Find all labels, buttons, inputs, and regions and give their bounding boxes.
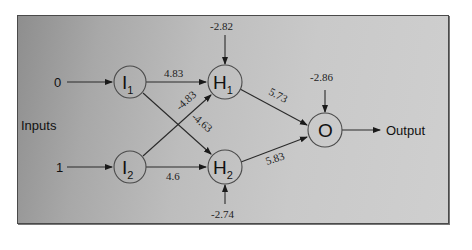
weight-i2-h2: 4.6 (166, 170, 180, 182)
inputs-label: Inputs (21, 118, 57, 133)
node-i1-label: I1 (122, 72, 133, 96)
node-o-label: O (318, 120, 333, 141)
node-i2-label: I2 (122, 157, 133, 181)
output-label: Output (386, 123, 425, 138)
weight-h1-o: 5.73 (267, 85, 290, 105)
weight-i1-h1: 4.83 (164, 67, 184, 79)
input-value-0: 0 (54, 75, 61, 90)
node-h1-label: H1 (213, 72, 233, 96)
node-h2-label: H2 (213, 157, 233, 181)
bias-h1: -2.82 (210, 20, 233, 32)
neural-network-diagram: I1 I2 H1 H2 O 0 1 Inputs Output 4.83 -4.… (0, 0, 472, 250)
weight-i1-h2: -4.63 (190, 110, 216, 134)
bias-h2: -2.74 (211, 208, 234, 220)
bias-o: -2.86 (310, 71, 333, 83)
input-value-1: 1 (56, 160, 63, 175)
